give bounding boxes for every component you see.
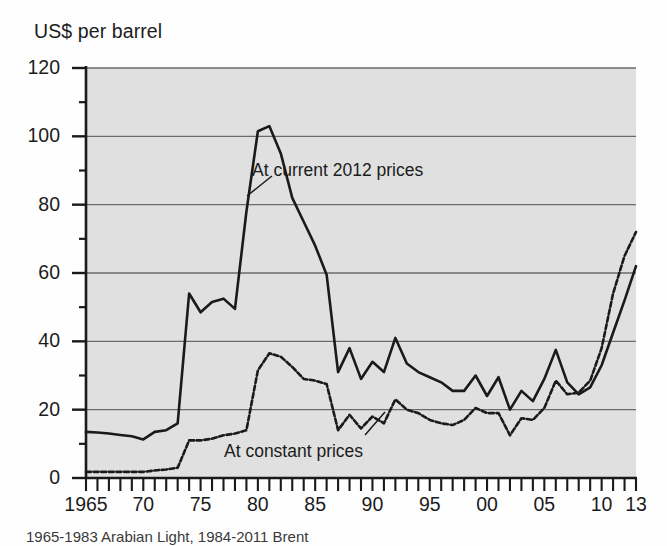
chart-canvas — [0, 0, 667, 546]
x-tick-marks — [86, 478, 636, 491]
y-tick-label-80: 80 — [8, 195, 60, 215]
y-tick-label-60: 60 — [8, 263, 60, 283]
annotation-at-current-prices: At current 2012 prices — [252, 162, 423, 180]
chart-figure: ████ ██████ ███ █████ ██████ ███████ ██ … — [0, 0, 667, 546]
y-tick-label-100: 100 — [8, 126, 60, 146]
y-tick-marks — [72, 68, 86, 478]
plot-area: 020406080100120 196570758085909500051013 — [0, 0, 667, 546]
figure-caption: 1965-1983 Arabian Light, 1984-2011 Brent — [26, 528, 406, 546]
y-tick-label-40: 40 — [8, 331, 60, 351]
y-tick-label-120: 120 — [8, 58, 60, 78]
y-tick-label-0: 0 — [8, 468, 60, 488]
annotation-at-constant-prices: At constant prices — [224, 443, 363, 461]
x-tick-label-13: 13 — [601, 495, 667, 515]
y-tick-label-20: 20 — [8, 400, 60, 420]
